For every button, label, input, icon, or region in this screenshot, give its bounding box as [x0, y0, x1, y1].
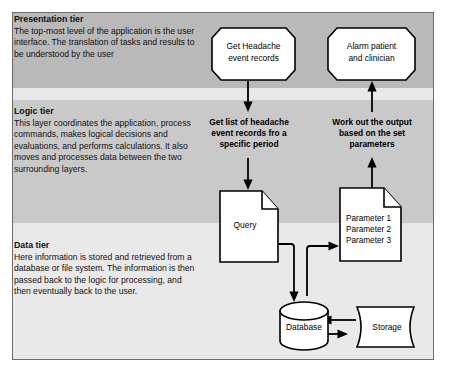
diagram-frame: [12, 12, 434, 360]
tier-title-data: Data tier: [14, 240, 200, 252]
tier-body-data: Here information is stored and retrieved…: [14, 252, 200, 298]
tier-body-presentation: The top-most level of the application is…: [14, 26, 200, 61]
tier-description-presentation: Presentation tier The top-most level of …: [14, 14, 200, 60]
diagram-canvas: Presentation tier The top-most level of …: [0, 0, 454, 378]
tier-description-logic: Logic tier This layer coordinates the ap…: [14, 106, 200, 176]
tier-description-data: Data tier Here information is stored and…: [14, 240, 200, 298]
tier-title-presentation: Presentation tier: [14, 14, 200, 26]
tier-body-logic: This layer coordinates the application, …: [14, 118, 200, 176]
tier-title-logic: Logic tier: [14, 106, 200, 118]
